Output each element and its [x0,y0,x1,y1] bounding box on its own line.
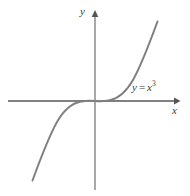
y-axis-arrowhead [92,10,99,17]
y-axis-label: y [80,6,85,17]
curve-equation-label: y=x3 [132,82,156,93]
x-axis-label: x [172,105,177,116]
equation-exponent: 3 [152,79,156,88]
plot-area [0,0,190,196]
equation-operator: = [137,81,147,93]
cubic-function-figure: y x y=x3 [0,0,190,196]
